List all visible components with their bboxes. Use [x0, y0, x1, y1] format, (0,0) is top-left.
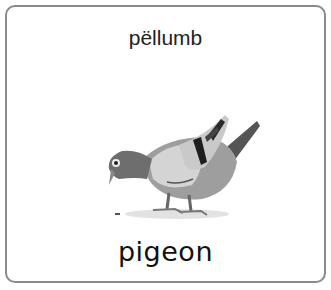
flashcard: pëllumb pigeon	[5, 5, 326, 283]
english-word-label: pigeon	[7, 236, 324, 267]
native-word-label: pëllumb	[7, 26, 324, 50]
pigeon-image	[97, 107, 267, 227]
